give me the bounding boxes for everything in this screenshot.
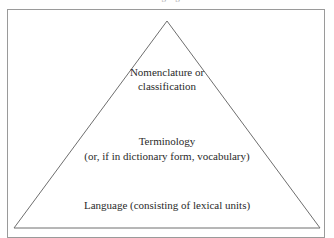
pyramid-tier-middle: Terminology (or, if in dictionary form, … <box>0 134 334 163</box>
pyramid-tier-base-line-1: Language (consisting of lexical units) <box>0 198 334 212</box>
pyramid-figure: language Nomenclature or classification … <box>0 0 334 238</box>
pyramid-tier-middle-line-2: (or, if in dictionary form, vocabulary) <box>0 149 334 164</box>
pyramid-tier-base: Language (consisting of lexical units) <box>0 198 334 212</box>
triangle-outline <box>14 21 320 228</box>
pyramid-tier-apex-line-2: classification <box>0 79 334 93</box>
pyramid-tier-apex-line-1: Nomenclature or <box>0 65 334 79</box>
pyramid-tier-middle-line-1: Terminology <box>0 134 334 149</box>
pyramid-tier-apex: Nomenclature or classification <box>0 65 334 93</box>
